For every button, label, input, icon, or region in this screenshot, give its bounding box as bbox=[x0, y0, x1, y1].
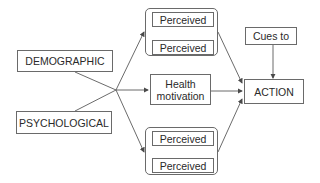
perceived-bottom-box-1: Perceived bbox=[152, 131, 214, 146]
action-label: ACTION bbox=[254, 86, 294, 98]
perceived-top-box-2: Perceived bbox=[152, 40, 214, 55]
cues-to-box: Cues to bbox=[245, 27, 297, 45]
demographic-label: DEMOGRAPHIC bbox=[25, 55, 104, 67]
psychological-box: PSYCHOLOGICAL bbox=[16, 111, 112, 134]
health-motivation-label: Health motivation bbox=[151, 78, 210, 102]
perceived-bottom-label-2: Perceived bbox=[160, 160, 207, 172]
perceived-bottom-label-1: Perceived bbox=[160, 133, 207, 145]
demographic-box: DEMOGRAPHIC bbox=[17, 50, 113, 72]
health-motivation-box: Health motivation bbox=[150, 74, 211, 105]
perceived-top-box-1: Perceived bbox=[152, 12, 214, 27]
perceived-top-label-1: Perceived bbox=[160, 14, 207, 26]
action-box: ACTION bbox=[244, 79, 304, 104]
cues-to-label: Cues to bbox=[253, 30, 289, 42]
perceived-bottom-box-2: Perceived bbox=[152, 158, 214, 173]
psychological-label: PSYCHOLOGICAL bbox=[19, 117, 109, 129]
perceived-top-label-2: Perceived bbox=[160, 42, 207, 54]
